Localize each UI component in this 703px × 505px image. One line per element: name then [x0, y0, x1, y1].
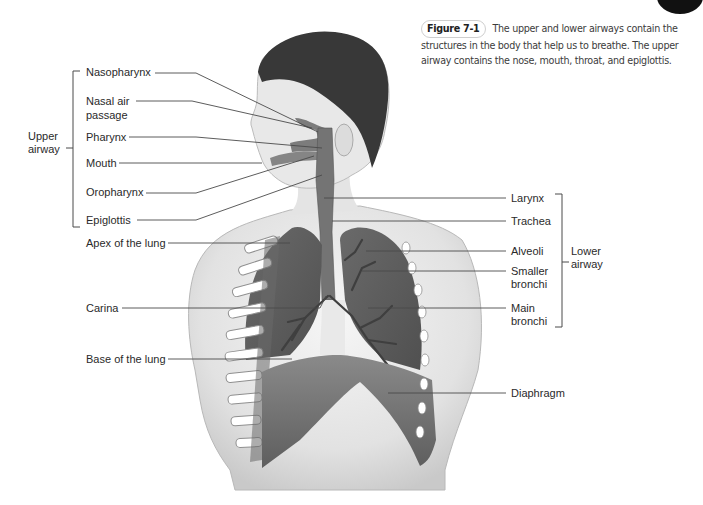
label-smaller-bronchi-line1: Smaller [511, 265, 548, 278]
group-label-line: airway [571, 258, 603, 271]
label-carina: Carina [86, 302, 118, 315]
figure-number-badge: Figure 7-1 [421, 20, 486, 38]
label-main-bronchi-line2: bronchi [511, 315, 547, 328]
label-diaphragm: Diaphragm [511, 387, 565, 400]
label-nasal-air-passage-line1: Nasal air [86, 95, 129, 108]
label-larynx: Larynx [511, 192, 544, 205]
label-nasal-air-passage-line2: passage [86, 109, 128, 122]
label-nasopharynx: Nasopharynx [86, 66, 151, 79]
label-main-bronchi-line1: Main [511, 302, 535, 315]
lower-airway-bracket [555, 194, 569, 327]
group-label-lower-airway: Lower airway [571, 245, 603, 271]
group-label-upper-airway: Upper airway [28, 130, 60, 156]
label-apex-of-the-lung: Apex of the lung [86, 237, 166, 250]
label-mouth: Mouth [86, 157, 117, 170]
upper-airway-bracket [66, 71, 80, 227]
group-label-line: airway [28, 143, 60, 156]
heart-notch [320, 300, 345, 355]
label-pharynx: Pharynx [86, 131, 126, 144]
group-label-line: Lower [571, 245, 603, 258]
figure-caption: Figure 7-1The upper and lower airways co… [421, 20, 679, 69]
label-base-of-the-lung: Base of the lung [86, 353, 166, 366]
label-alveoli: Alveoli [511, 245, 543, 258]
label-epiglottis: Epiglottis [86, 214, 131, 227]
label-smaller-bronchi-line2: bronchi [511, 278, 547, 291]
ear-shape [335, 124, 353, 156]
group-label-line: Upper [28, 130, 60, 143]
label-oropharynx: Oropharynx [86, 186, 143, 199]
label-trachea: Trachea [511, 215, 551, 228]
